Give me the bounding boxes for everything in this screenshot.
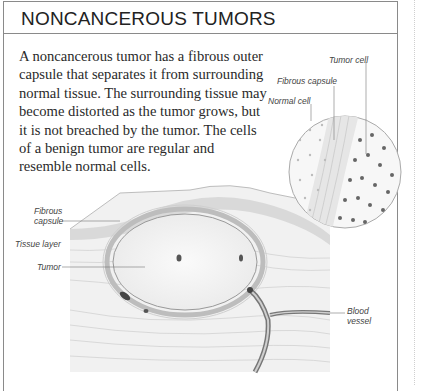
label-fibrous-capsule-inset: Fibrous capsule [277, 76, 337, 86]
tissue-block [70, 186, 330, 372]
label-tissue-layer: Tissue layer [15, 239, 61, 249]
label-blood-vessel: Blood vessel [347, 306, 371, 326]
label-tumor: Tumor [37, 262, 61, 272]
label-normal-cell: Normal cell [268, 96, 311, 106]
label-fibrous-capsule: Fibrous capsule [34, 206, 61, 226]
label-tumor-cell: Tumor cell [329, 55, 368, 65]
